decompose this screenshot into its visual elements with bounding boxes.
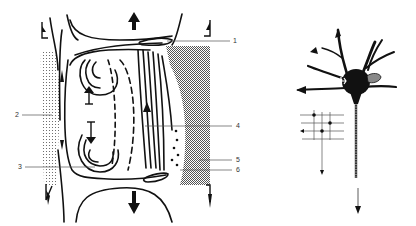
left-panel <box>41 14 210 222</box>
arrow-down-bundle <box>143 102 151 112</box>
arrow-down-inner <box>86 137 96 144</box>
axon <box>356 104 358 210</box>
label-5: 5 <box>236 156 240 163</box>
label-2: 2 <box>15 111 19 118</box>
organelle <box>367 73 381 82</box>
axon-arrow-down <box>355 206 361 214</box>
right-panel <box>296 28 396 214</box>
neuron <box>296 28 396 104</box>
stippled-region-2 <box>41 52 61 185</box>
hatched-region-5 <box>166 46 210 185</box>
synapse-grid <box>300 110 344 172</box>
label-1: 1 <box>233 37 237 44</box>
label-3: 3 <box>18 163 22 170</box>
arrow-left-wall-lower <box>60 140 64 150</box>
arrow-down-bottom-center <box>128 191 140 214</box>
label-6: 6 <box>236 166 240 173</box>
diagram-canvas <box>0 0 416 226</box>
arrow-left-wall <box>60 70 64 82</box>
label-4: 4 <box>236 122 240 129</box>
soma <box>342 69 370 95</box>
arrow-up-top-center <box>128 12 140 30</box>
